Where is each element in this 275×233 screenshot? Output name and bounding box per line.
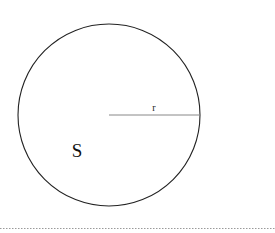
radius-label: r — [152, 102, 156, 113]
area-label: S — [72, 140, 83, 161]
circle-diagram: r S — [0, 0, 275, 233]
